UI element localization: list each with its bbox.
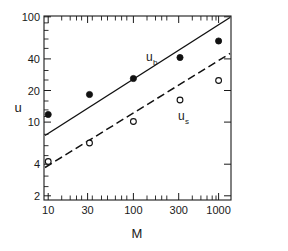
series-label-us: u s [178, 109, 189, 126]
x-tick-label-1000: 1000 [206, 204, 230, 216]
x-axis-minor-ticks [62, 196, 216, 201]
data-point-ub [216, 38, 222, 44]
series-ub-points [45, 38, 222, 118]
y-axis-right-ticks [224, 17, 231, 196]
data-point-ub [45, 111, 51, 117]
y-tick-label-4: 4 [34, 158, 40, 170]
y-axis-title: u [14, 100, 21, 115]
data-point-us [177, 97, 183, 103]
data-point-ub [86, 91, 92, 97]
x-tick-label-100: 100 [124, 204, 142, 216]
data-point-us [216, 78, 222, 84]
y-tick-label-2: 2 [34, 190, 40, 202]
data-point-us [45, 159, 51, 165]
figure-container: 100 40 20 10 4 2 u [0, 0, 288, 251]
fit-line-ub [45, 18, 230, 136]
x-axis-top-ticks [48, 16, 218, 23]
y-tick-label-40: 40 [28, 53, 40, 65]
data-point-ub [177, 54, 183, 60]
x-tick-label-10: 10 [42, 204, 54, 216]
series-label-ub: u b [146, 50, 158, 67]
log-log-scatter-chart: 100 40 20 10 4 2 u [0, 0, 288, 251]
x-tick-label-300: 300 [170, 204, 188, 216]
plot-frame [44, 16, 231, 200]
y-axis-major-ticks [44, 17, 51, 196]
y-tick-label-100: 100 [22, 11, 40, 23]
series-label-ub-text: u [146, 50, 153, 64]
fit-line-us [45, 54, 230, 168]
x-axis-title: M [132, 226, 143, 241]
y-tick-label-20: 20 [28, 85, 40, 97]
x-axis-major-ticks [48, 193, 218, 200]
y-tick-label-10: 10 [28, 116, 40, 128]
series-label-us-subscript: s [185, 117, 189, 126]
data-point-us [87, 140, 93, 146]
series-label-ub-subscript: b [153, 58, 158, 67]
data-point-ub [130, 75, 136, 81]
x-tick-label-30: 30 [81, 204, 93, 216]
y-axis-tick-labels: 100 40 20 10 4 2 [22, 11, 40, 202]
x-axis-tick-labels: 10 30 100 300 1000 [42, 204, 231, 216]
series-label-us-text: u [178, 109, 185, 123]
data-point-us [131, 119, 137, 125]
